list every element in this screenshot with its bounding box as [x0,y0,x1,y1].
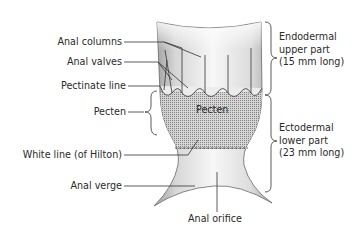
label-pectinate-line: Pectinate line [20,80,126,91]
lower-part-brace [265,95,277,192]
label-pecten: Pecten [40,106,126,117]
label-endodermal-upper-part: Endodermal upper part (15 mm long) [279,31,344,69]
label-anal-orifice: Anal orifice [188,213,242,224]
label-pecten-inside: Pecten [196,104,228,115]
pecten-region [158,92,263,149]
label-anal-verge: Anal verge [30,180,122,191]
pecten-brace [145,91,157,135]
label-white-line-of-hilton: White line (of Hilton) [0,149,122,160]
anal-canal-shape [150,20,272,212]
label-ectodermal-lower-part: Ectodermal lower part (23 mm long) [279,122,344,160]
upper-part-brace [265,22,277,95]
label-anal-valves: Anal valves [30,56,122,67]
label-anal-columns: Anal columns [30,36,122,47]
